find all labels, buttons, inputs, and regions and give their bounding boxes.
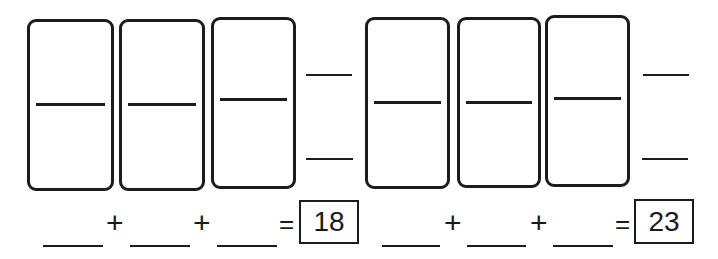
side-blank-bottom-1[interactable] — [306, 158, 353, 160]
plus-sign: + — [193, 208, 211, 238]
domino-2-1 — [365, 17, 450, 189]
addend-blank-2-2[interactable] — [467, 245, 526, 247]
domino-1-2 — [119, 19, 205, 191]
equals-sign: = — [615, 209, 630, 239]
domino-1-3 — [211, 17, 296, 189]
domino-divider — [466, 101, 532, 104]
domino-1-1 — [27, 19, 114, 191]
total-box-2: 23 — [634, 199, 694, 244]
domino-2-2 — [457, 17, 541, 188]
plus-sign: + — [106, 208, 124, 238]
addend-blank-2-1[interactable] — [382, 245, 440, 247]
side-blank-top-1[interactable] — [306, 74, 352, 76]
domino-divider — [374, 101, 441, 104]
addend-blank-1-1[interactable] — [43, 245, 103, 247]
side-blank-bottom-2[interactable] — [642, 158, 688, 160]
domino-divider — [554, 97, 621, 100]
equals-sign: = — [279, 211, 294, 237]
plus-sign: + — [444, 208, 462, 238]
addend-blank-1-3[interactable] — [217, 245, 277, 247]
domino-divider — [128, 103, 196, 106]
addend-blank-1-2[interactable] — [130, 245, 190, 247]
domino-divider — [36, 103, 105, 106]
addend-blank-2-3[interactable] — [553, 245, 613, 247]
plus-sign: + — [530, 208, 548, 238]
domino-divider — [220, 98, 287, 101]
domino-2-3 — [545, 15, 630, 187]
side-blank-top-2[interactable] — [643, 74, 689, 76]
total-box-1: 18 — [299, 200, 359, 244]
